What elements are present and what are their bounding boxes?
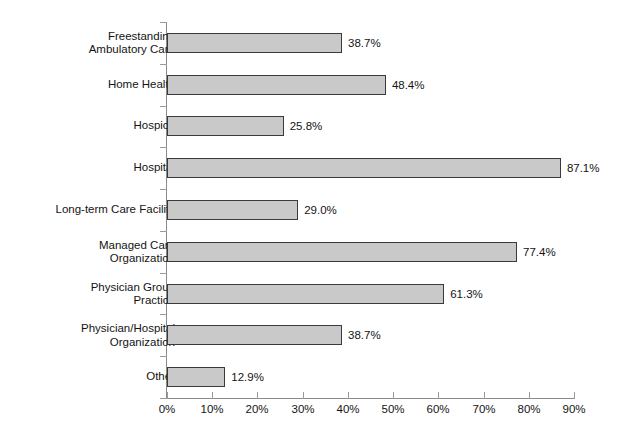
bar	[167, 284, 444, 304]
category-label: Freestanding Ambulatory Care	[0, 29, 175, 56]
bar-value-label: 25.8%	[290, 120, 323, 132]
bar-row: Hospital87.1%	[0, 147, 624, 189]
x-axis-tick-label: 30%	[280, 403, 326, 415]
bar	[167, 116, 284, 136]
bar	[167, 75, 386, 95]
bar	[167, 33, 342, 53]
x-axis-tick-label: 50%	[370, 403, 416, 415]
bar-row: Managed Care Organization77.4%	[0, 231, 624, 273]
bar-row: Hospice25.8%	[0, 106, 624, 148]
bar-value-label: 48.4%	[392, 79, 425, 91]
bar-chart-plot-area: Freestanding Ambulatory Care38.7%Home He…	[0, 0, 624, 445]
bar	[167, 367, 225, 387]
bar-value-label: 77.4%	[523, 246, 556, 258]
bar-value-label: 61.3%	[450, 288, 483, 300]
bar-value-label: 29.0%	[304, 204, 337, 216]
category-label: Physician Group Practice	[0, 280, 175, 307]
x-axis-tick-label: 70%	[461, 403, 507, 415]
bar-row: Long-term Care Facility29.0%	[0, 189, 624, 231]
bar-row: Home Health48.4%	[0, 64, 624, 106]
bar-row: Freestanding Ambulatory Care38.7%	[0, 22, 624, 64]
x-axis-tick-label: 0%	[144, 403, 190, 415]
category-label: Hospice	[0, 120, 175, 134]
category-label: Hospital	[0, 161, 175, 175]
x-axis-line	[166, 398, 575, 399]
x-axis-tick-label: 80%	[506, 403, 552, 415]
category-label: Physician/Hospital Organization	[0, 322, 175, 349]
x-axis-tick-label: 90%	[551, 403, 597, 415]
bar-value-label: 38.7%	[348, 37, 381, 49]
bar-value-label: 87.1%	[567, 162, 600, 174]
x-axis-tick-label: 10%	[189, 403, 235, 415]
bar	[167, 158, 561, 178]
y-axis-tick	[160, 398, 167, 399]
category-label: Long-term Care Facility	[0, 203, 175, 217]
bar	[167, 200, 298, 220]
bar-row: Other12.9%	[0, 356, 624, 398]
category-label: Other	[0, 370, 175, 384]
bar	[167, 242, 517, 262]
category-label: Managed Care Organization	[0, 238, 175, 265]
x-axis-tick-label: 60%	[415, 403, 461, 415]
bar-value-label: 12.9%	[231, 371, 264, 383]
bar-value-label: 38.7%	[348, 329, 381, 341]
bar	[167, 325, 342, 345]
bar-row: Physician Group Practice61.3%	[0, 273, 624, 315]
bar-row: Physician/Hospital Organization38.7%	[0, 314, 624, 356]
x-axis-tick-label: 20%	[234, 403, 280, 415]
x-axis-tick-label: 40%	[325, 403, 371, 415]
category-label: Home Health	[0, 78, 175, 92]
